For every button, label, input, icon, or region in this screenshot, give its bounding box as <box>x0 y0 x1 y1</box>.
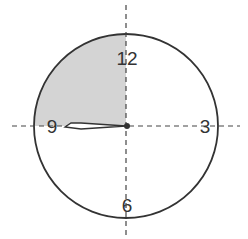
clock-diagram: 12 3 6 9 <box>0 0 248 239</box>
numeral-12: 12 <box>116 48 137 69</box>
center-pivot <box>124 123 130 129</box>
numeral-6: 6 <box>122 195 133 216</box>
numeral-9: 9 <box>47 116 58 137</box>
numeral-3: 3 <box>200 116 211 137</box>
shaded-quadrant <box>34 34 126 126</box>
